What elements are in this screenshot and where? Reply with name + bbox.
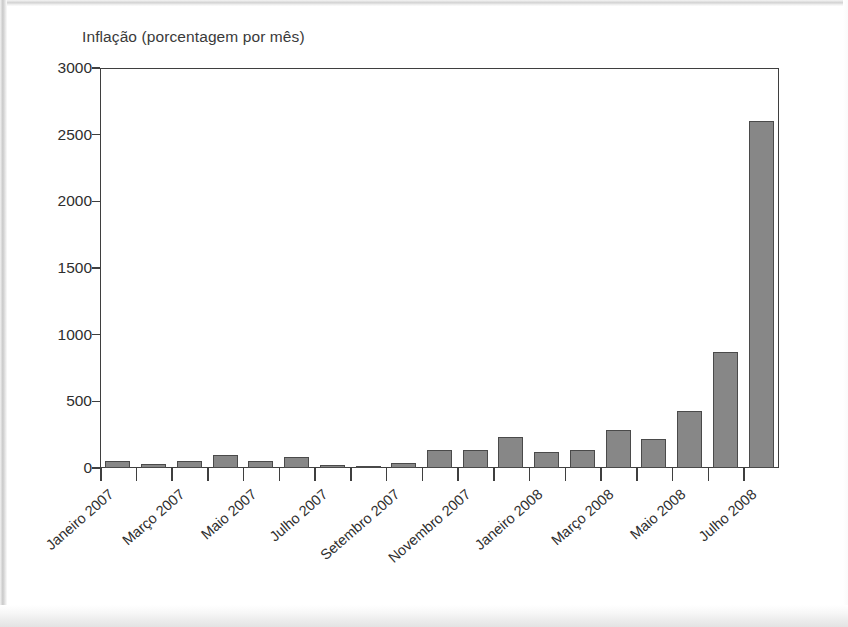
y-axis-tick-label: 0 [34,459,92,477]
x-axis-tick-mark [386,468,388,481]
bar [606,430,631,468]
x-axis-tick-mark [600,468,602,481]
y-axis-tick-label: 1500 [34,259,92,277]
x-axis-tick-mark [636,468,638,481]
y-axis-tick-mark [92,201,100,203]
bar-slot [529,68,565,468]
bar-slot [207,68,243,468]
bar-series [100,68,779,468]
bar-slot [243,68,279,468]
x-axis-tick-mark [422,468,424,481]
y-axis-tick-label: 1000 [34,326,92,344]
bar [105,461,130,468]
x-axis-tick-label: Março 2008 [549,486,617,548]
x-axis-tick-mark [672,468,674,481]
y-axis-tick-label: 2000 [34,192,92,210]
x-axis-tick-mark [100,468,102,481]
y-axis-tick-mark [92,467,100,469]
y-axis-tick-label: 3000 [34,59,92,77]
bar-slot [279,68,315,468]
x-axis-tick-mark [708,468,710,481]
bar [641,439,666,468]
bar-slot [350,68,386,468]
y-axis-tick-mark [92,67,100,69]
bar [677,411,702,468]
x-axis-tick-label: Maio 2008 [627,486,689,543]
bar [570,450,595,468]
x-axis-tick-mark [457,468,459,481]
bar-chart-figure: Inflação (porcentagem por mês) 050010001… [0,0,848,627]
x-axis-tick-mark [493,468,495,481]
x-axis-tick-mark [279,468,281,481]
bar [320,465,345,468]
bar-slot [386,68,422,468]
bar-slot [100,68,136,468]
bar [284,457,309,468]
bar-slot [171,68,207,468]
bar-slot [422,68,458,468]
x-axis-tick-mark [743,468,745,481]
bar-slot [493,68,529,468]
bar [498,437,523,468]
y-axis-tick-mark [92,334,100,336]
chart-title: Inflação (porcentagem por mês) [82,28,305,46]
x-axis-tick-mark [207,468,209,481]
bar-slot [672,68,708,468]
x-axis-tick-label: Julho 2008 [696,486,760,545]
x-axis-tick-label: Janeiro 2008 [472,486,546,553]
x-axis-tick-label: Março 2007 [120,486,188,548]
bar-slot [314,68,350,468]
bar-slot [636,68,672,468]
bar [248,461,273,468]
bar [463,450,488,468]
bar [356,466,381,468]
bar [177,461,202,468]
bar [391,463,416,468]
bar-slot [743,68,779,468]
bar [213,455,238,468]
bar [713,352,738,468]
bar [534,452,559,468]
x-axis-tick-mark [565,468,567,481]
x-axis-tick-mark [529,468,531,481]
x-axis-tick-label: Maio 2007 [198,486,260,543]
bar-slot [707,68,743,468]
x-axis-tick-label: Julho 2007 [267,486,331,545]
y-axis-tick-label: 500 [34,392,92,410]
bar-slot [565,68,601,468]
x-axis-tick-mark [350,468,352,481]
x-axis-tick-mark [314,468,316,481]
y-axis-tick-mark [92,267,100,269]
x-axis-tick-mark [171,468,173,481]
scanned-page: Inflação (porcentagem por mês) 050010001… [0,0,848,627]
y-axis-tick-label: 2500 [34,126,92,144]
y-axis-tick-mark [92,134,100,136]
x-axis-tick-mark [243,468,245,481]
y-axis-tick-mark [92,401,100,403]
bar [749,121,774,468]
bar-slot [136,68,172,468]
x-axis-tick-mark [136,468,138,481]
bar-slot [457,68,493,468]
bar [427,450,452,468]
bar-slot [600,68,636,468]
bar [141,464,166,468]
